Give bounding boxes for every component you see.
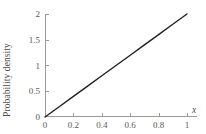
series-line-pdf bbox=[45, 14, 187, 117]
chart-figure: Probability density x 0 0.5 1 1.5 2 0 0.… bbox=[0, 0, 206, 134]
series-layer bbox=[0, 0, 206, 134]
